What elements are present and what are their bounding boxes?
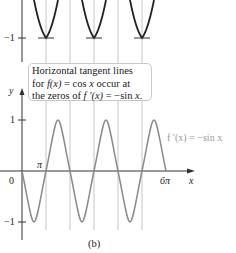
callout-line1: Horizontal tangent lines (32, 65, 148, 78)
tick-minus1: −1 (4, 217, 15, 227)
plot-canvas (0, 0, 236, 253)
curve-label: f ′(x) = −sin x (167, 133, 222, 143)
tick-1: 1 (10, 115, 15, 125)
top-tick-minus1: −1 (4, 33, 15, 43)
callout-line3: the zeros of f ′(x) = −sin x. (32, 90, 148, 103)
y-axis-label: y (9, 86, 13, 96)
callout-box: Horizontal tangent lines for f(x) = cos … (28, 63, 152, 101)
vertical-guides (46, 0, 142, 230)
origin-label: 0 (9, 176, 14, 186)
six-pi-label: 6π (160, 176, 170, 186)
callout-line2: for f(x) = cos x occur at (32, 78, 148, 91)
figure: −1 Horizontal tangent lines for f(x) = c… (0, 0, 236, 253)
caption: (b) (88, 239, 100, 249)
pi-label: π (37, 160, 42, 170)
x-axis-label: x (189, 176, 193, 186)
